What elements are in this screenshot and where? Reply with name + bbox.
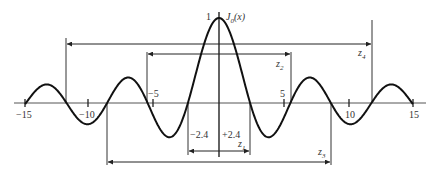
diagram-canvas: 1 J0(x) z4 z2 z1 z3 −2.4 +2.4 −15 −10 −5… bbox=[0, 0, 438, 177]
function-label: J0(x) bbox=[226, 11, 246, 25]
tick-label-m15: −15 bbox=[16, 109, 32, 120]
bessel-diagram: 1 J0(x) z4 z2 z1 z3 −2.4 +2.4 −15 −10 −5… bbox=[0, 0, 438, 177]
tick-label-m5: −5 bbox=[148, 88, 159, 99]
tick-label-5: 5 bbox=[280, 88, 285, 99]
tick-label-10: 10 bbox=[345, 109, 355, 120]
z4-label: z4 bbox=[357, 47, 366, 61]
tick-label-m10: −10 bbox=[79, 109, 95, 120]
z2-label: z2 bbox=[275, 58, 284, 72]
z3-label: z3 bbox=[317, 146, 326, 160]
peak-label: 1 bbox=[206, 11, 211, 22]
minus-2-4-label: −2.4 bbox=[190, 129, 208, 140]
tick-label-15: 15 bbox=[409, 109, 419, 120]
z1-label: z1 bbox=[237, 138, 245, 152]
plus-2-4-label: +2.4 bbox=[222, 129, 240, 140]
